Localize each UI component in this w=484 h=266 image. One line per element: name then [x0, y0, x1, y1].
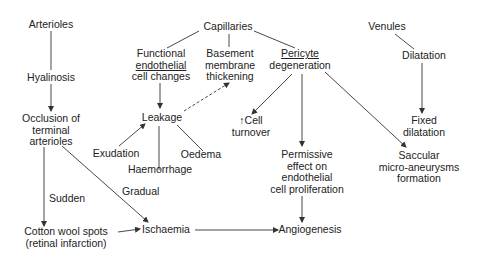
node-turnover-line: ↑Cell: [232, 115, 271, 127]
node-cell-turnover: ↑Cell turnover: [232, 115, 271, 138]
node-ischaemia: Ischaemia: [142, 224, 190, 236]
edge-cap-functional: [167, 31, 199, 48]
node-arterioles: Arterioles: [29, 19, 73, 31]
node-angiogenesis: Angiogenesis: [278, 224, 341, 236]
node-cotton-line: Cotton wool spots: [24, 226, 107, 238]
edge-label-gradual: Gradual: [122, 185, 159, 197]
node-capillaries: Capillaries: [203, 21, 252, 33]
node-pericyte: Pericyte degeneration: [269, 48, 330, 71]
node-pericyte-line: degeneration: [269, 60, 330, 72]
pathogenesis-diagram: Arterioles Hyalinosis Occlusion of termi…: [0, 0, 484, 266]
node-permissive-effect: Permissive effect on endothelial cell pr…: [270, 149, 344, 195]
node-occlusion-line: Occlusion of: [22, 113, 80, 125]
node-hyalinosis: Hyalinosis: [27, 72, 75, 84]
node-cotton-line: (retinal infarction): [24, 238, 107, 250]
node-turnover-line: turnover: [232, 127, 271, 139]
node-saccular-microaneurysms: Saccular micro-aneurysms formation: [379, 150, 460, 185]
node-permissive-line: cell proliferation: [270, 184, 344, 196]
edge-label-sudden: Sudden: [49, 192, 85, 204]
node-oedema: Oedema: [181, 149, 221, 161]
node-basement-line: thickening: [205, 71, 255, 83]
node-functional-line: cell changes: [132, 71, 190, 83]
edge-pericyte-turnover: [252, 74, 292, 114]
node-permissive-line: Permissive: [270, 149, 344, 161]
edge-leakage-basement: [184, 83, 229, 111]
edge-cotton-ischaemia: [118, 229, 140, 232]
node-occlusion-line: arterioles: [22, 136, 80, 148]
node-basement-membrane: Basement membrane thickening: [205, 48, 255, 83]
node-exudation: Exudation: [93, 148, 140, 160]
node-functional-endothelial: Functional endothelial cell changes: [132, 48, 190, 83]
node-basement-line: Basement: [205, 48, 255, 60]
node-permissive-line: endothelial: [270, 172, 344, 184]
edge-exudation-leakage: [119, 124, 145, 146]
edge-cap-pericyte: [254, 31, 295, 48]
node-pericyte-line: Pericyte: [269, 48, 330, 60]
node-cotton-wool-spots: Cotton wool spots (retinal infarction): [24, 226, 107, 249]
node-haemorrhage: Haemorrhage: [128, 164, 192, 176]
node-occlusion: Occlusion of terminal arterioles: [22, 113, 80, 148]
node-dilatation: Dilatation: [402, 50, 446, 62]
node-fixed-line: dilatation: [403, 127, 445, 139]
edge-pericyte-saccular: [325, 72, 406, 147]
node-functional-line: Functional: [132, 48, 190, 60]
edge-venules-dilatation: [395, 34, 414, 49]
node-saccular-line: Saccular: [379, 150, 460, 162]
node-leakage: Leakage: [142, 112, 182, 124]
node-fixed-line: Fixed: [403, 115, 445, 127]
node-fixed-dilatation: Fixed dilatation: [403, 115, 445, 138]
node-venules: Venules: [368, 21, 405, 33]
node-saccular-line: formation: [379, 173, 460, 185]
